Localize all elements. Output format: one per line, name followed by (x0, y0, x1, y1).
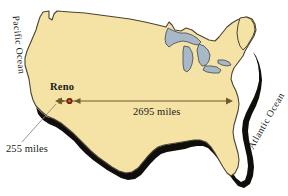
distance-label-reno-to-coast: 255 miles (6, 144, 48, 155)
distance-label-coast-to-coast: 2695 miles (133, 107, 180, 118)
city-label-reno: Reno (50, 82, 74, 93)
us-landmass (25, 11, 256, 176)
reno-marker-center (68, 100, 71, 103)
northeast-coast (237, 17, 255, 50)
map-graphic (0, 0, 288, 196)
us-map-figure: Reno 2695 miles 255 miles Pacific Ocean … (0, 0, 288, 196)
